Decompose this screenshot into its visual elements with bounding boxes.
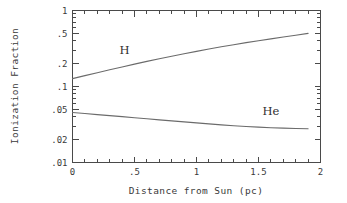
y-tick-label: .05	[51, 105, 67, 115]
plot-frame	[73, 11, 321, 163]
y-tick-label: .2	[57, 59, 68, 69]
chart-figure: 0.511.521.5.2.1.05.02.01 HHe Distance fr…	[0, 0, 347, 203]
axis-ticks	[73, 11, 321, 163]
y-tick-label: .5	[57, 29, 68, 39]
series-labels: HHe	[120, 43, 280, 118]
y-tick-label: .1	[57, 82, 68, 92]
x-tick-label: 1	[194, 167, 199, 177]
y-tick-label: 1	[62, 6, 67, 16]
tick-labels: 0.511.521.5.2.1.05.02.01	[51, 6, 323, 177]
x-tick-label: 1.5	[250, 167, 266, 177]
x-axis-title: Distance from Sun (pc)	[129, 185, 264, 196]
plot-axes	[73, 11, 321, 163]
curve-h	[73, 33, 309, 78]
x-tick-label: 2	[318, 167, 323, 177]
curve-label-he: He	[262, 104, 279, 118]
curve-label-h: H	[120, 43, 130, 57]
y-tick-label: .01	[51, 158, 67, 168]
y-axis-title: Ionization Fraction	[9, 28, 20, 144]
x-tick-label: .5	[129, 167, 140, 177]
y-tick-label: .02	[51, 135, 67, 145]
x-tick-label: 0	[70, 167, 75, 177]
ionization-fraction-plot: 0.511.521.5.2.1.05.02.01 HHe Distance fr…	[0, 0, 347, 203]
